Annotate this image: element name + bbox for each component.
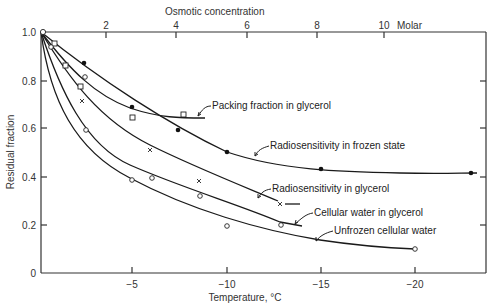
top-x-tick-labels: 2 4 6 8 10	[103, 20, 390, 31]
svg-text:−20: −20	[407, 279, 424, 290]
top-axis-unit: Molar	[397, 20, 423, 31]
x-axis-title: Temperature, °C	[209, 292, 282, 303]
x-ticks	[132, 267, 415, 273]
annotation-packing-fraction: Packing fraction in glycerol	[212, 100, 331, 111]
y-axis-title: Residual fraction	[5, 115, 16, 189]
svg-text:10: 10	[378, 20, 390, 31]
y-tick-labels: 1.0 0.8 0.6 0.4 0.2 0	[22, 27, 36, 279]
chart: 1.0 0.8 0.6 0.4 0.2 0 Residual fraction …	[0, 0, 495, 305]
svg-text:4: 4	[173, 20, 179, 31]
annotation-radiosensitivity-glycerol: Radiosensitivity in glycerol	[272, 183, 389, 194]
svg-text:0.6: 0.6	[22, 123, 36, 134]
svg-text:−10: −10	[219, 279, 236, 290]
svg-text:0.4: 0.4	[22, 172, 36, 183]
annotation-cellular-water-glycerol: Cellular water in glycerol	[314, 207, 423, 218]
svg-text:2: 2	[103, 20, 109, 31]
svg-text:6: 6	[244, 20, 250, 31]
axes-frame	[41, 32, 486, 273]
curve-packing-fraction	[41, 32, 205, 118]
svg-text:1.0: 1.0	[22, 27, 36, 38]
curve-cellular-water-glycerol	[41, 32, 302, 226]
top-x-ticks	[106, 32, 384, 38]
svg-text:8: 8	[314, 20, 320, 31]
markers-packing-fraction	[52, 41, 186, 120]
svg-text:−5: −5	[126, 279, 138, 290]
annotation-unfrozen-cellular-water: Unfrozen cellular water	[334, 225, 437, 236]
svg-text:0: 0	[30, 268, 36, 279]
annotation-radiosensitivity-frozen: Radiosensitivity in frozen state	[270, 140, 406, 151]
svg-text:0.2: 0.2	[22, 220, 36, 231]
svg-text:0.8: 0.8	[22, 76, 36, 87]
curve-radiosensitivity-glycerol	[41, 32, 278, 201]
svg-text:−15: −15	[313, 279, 330, 290]
x-tick-labels: −5 −10 −15 −20	[126, 279, 424, 290]
markers-radiosensitivity-frozen	[82, 61, 474, 176]
top-axis-title: Osmotic concentration	[165, 6, 265, 17]
